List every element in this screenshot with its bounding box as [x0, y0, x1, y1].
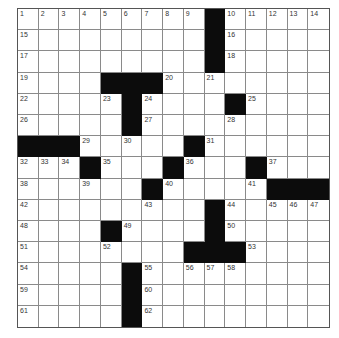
grid-cell[interactable]	[122, 242, 143, 263]
grid-cell[interactable]	[184, 200, 205, 221]
grid-cell[interactable]	[184, 221, 205, 242]
grid-cell[interactable]	[163, 200, 184, 221]
grid-cell[interactable]: 58	[225, 263, 246, 284]
grid-cell[interactable]: 19	[18, 73, 39, 94]
grid-cell[interactable]: 36	[184, 157, 205, 178]
grid-cell[interactable]	[267, 263, 288, 284]
grid-cell[interactable]	[288, 73, 309, 94]
grid-cell[interactable]	[163, 51, 184, 72]
grid-cell[interactable]	[308, 306, 329, 327]
grid-cell[interactable]	[163, 30, 184, 51]
grid-cell[interactable]	[288, 115, 309, 136]
grid-cell[interactable]: 24	[142, 94, 163, 115]
grid-cell[interactable]	[246, 200, 267, 221]
grid-cell[interactable]	[163, 263, 184, 284]
grid-cell[interactable]	[267, 94, 288, 115]
grid-cell[interactable]	[80, 51, 101, 72]
grid-cell[interactable]: 8	[163, 9, 184, 30]
grid-cell[interactable]	[122, 179, 143, 200]
grid-cell[interactable]: 22	[18, 94, 39, 115]
grid-cell[interactable]: 38	[18, 179, 39, 200]
grid-cell[interactable]: 44	[225, 200, 246, 221]
grid-cell[interactable]	[246, 263, 267, 284]
grid-cell[interactable]: 17	[18, 51, 39, 72]
grid-cell[interactable]: 57	[205, 263, 226, 284]
grid-cell[interactable]	[288, 30, 309, 51]
grid-cell[interactable]	[288, 306, 309, 327]
grid-cell[interactable]	[39, 200, 60, 221]
grid-cell[interactable]: 29	[80, 136, 101, 157]
grid-cell[interactable]	[205, 285, 226, 306]
grid-cell[interactable]: 52	[101, 242, 122, 263]
grid-cell[interactable]: 12	[267, 9, 288, 30]
grid-cell[interactable]	[225, 285, 246, 306]
grid-cell[interactable]: 40	[163, 179, 184, 200]
grid-cell[interactable]	[59, 263, 80, 284]
grid-cell[interactable]	[246, 115, 267, 136]
grid-cell[interactable]: 43	[142, 200, 163, 221]
grid-cell[interactable]	[142, 157, 163, 178]
grid-cell[interactable]: 6	[122, 9, 143, 30]
grid-cell[interactable]	[101, 200, 122, 221]
grid-cell[interactable]	[59, 242, 80, 263]
grid-cell[interactable]	[267, 136, 288, 157]
grid-cell[interactable]	[205, 115, 226, 136]
grid-cell[interactable]	[184, 285, 205, 306]
grid-cell[interactable]: 1	[18, 9, 39, 30]
grid-cell[interactable]: 62	[142, 306, 163, 327]
grid-cell[interactable]	[39, 221, 60, 242]
grid-cell[interactable]	[39, 285, 60, 306]
grid-cell[interactable]: 31	[205, 136, 226, 157]
grid-cell[interactable]	[39, 242, 60, 263]
grid-cell[interactable]	[80, 30, 101, 51]
grid-cell[interactable]	[308, 94, 329, 115]
grid-cell[interactable]: 35	[101, 157, 122, 178]
grid-cell[interactable]	[288, 51, 309, 72]
grid-cell[interactable]	[267, 73, 288, 94]
grid-cell[interactable]	[59, 221, 80, 242]
grid-cell[interactable]	[80, 263, 101, 284]
grid-cell[interactable]: 4	[80, 9, 101, 30]
grid-cell[interactable]: 5	[101, 9, 122, 30]
grid-cell[interactable]	[39, 51, 60, 72]
grid-cell[interactable]	[225, 157, 246, 178]
grid-cell[interactable]	[267, 115, 288, 136]
grid-cell[interactable]	[39, 94, 60, 115]
grid-cell[interactable]: 60	[142, 285, 163, 306]
grid-cell[interactable]	[80, 200, 101, 221]
grid-cell[interactable]	[184, 94, 205, 115]
grid-cell[interactable]	[142, 51, 163, 72]
grid-cell[interactable]	[184, 306, 205, 327]
grid-cell[interactable]	[225, 306, 246, 327]
grid-cell[interactable]	[225, 73, 246, 94]
grid-cell[interactable]: 30	[122, 136, 143, 157]
grid-cell[interactable]	[184, 51, 205, 72]
grid-cell[interactable]	[288, 221, 309, 242]
grid-cell[interactable]	[163, 94, 184, 115]
grid-cell[interactable]	[246, 30, 267, 51]
grid-cell[interactable]: 23	[101, 94, 122, 115]
grid-cell[interactable]	[59, 285, 80, 306]
grid-cell[interactable]	[101, 263, 122, 284]
grid-cell[interactable]: 3	[59, 9, 80, 30]
grid-cell[interactable]	[101, 136, 122, 157]
grid-cell[interactable]	[267, 285, 288, 306]
grid-cell[interactable]: 7	[142, 9, 163, 30]
grid-cell[interactable]	[39, 306, 60, 327]
grid-cell[interactable]	[288, 94, 309, 115]
grid-cell[interactable]: 9	[184, 9, 205, 30]
grid-cell[interactable]	[39, 115, 60, 136]
grid-cell[interactable]	[80, 306, 101, 327]
grid-cell[interactable]: 28	[225, 115, 246, 136]
grid-cell[interactable]	[308, 242, 329, 263]
grid-cell[interactable]	[80, 242, 101, 263]
grid-cell[interactable]	[80, 115, 101, 136]
grid-cell[interactable]	[246, 285, 267, 306]
grid-cell[interactable]: 25	[246, 94, 267, 115]
grid-cell[interactable]: 41	[246, 179, 267, 200]
grid-cell[interactable]	[225, 179, 246, 200]
grid-cell[interactable]	[288, 136, 309, 157]
grid-cell[interactable]	[80, 285, 101, 306]
grid-cell[interactable]	[288, 285, 309, 306]
grid-cell[interactable]	[308, 285, 329, 306]
